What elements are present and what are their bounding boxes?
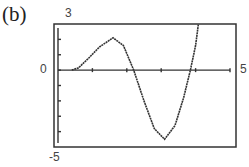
function-curve [72,24,199,139]
axes [58,28,230,143]
plot-frame [54,24,236,147]
plot-area [0,0,249,167]
